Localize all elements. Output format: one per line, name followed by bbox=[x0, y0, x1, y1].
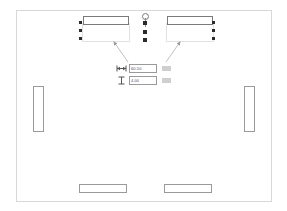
selection-grip[interactable] bbox=[143, 38, 147, 42]
horizontal-dimension-icon bbox=[116, 64, 127, 73]
length-unit-badge bbox=[162, 66, 171, 71]
selection-grip[interactable] bbox=[79, 29, 82, 32]
wall-bottom-left[interactable] bbox=[79, 184, 127, 193]
wall-length-value: 60.50 bbox=[131, 66, 142, 71]
wall-top-left[interactable] bbox=[83, 16, 129, 25]
wall-thickness-value: 4.00 bbox=[131, 78, 139, 83]
wall-bottom-right[interactable] bbox=[164, 184, 212, 193]
wall-left[interactable] bbox=[33, 86, 44, 132]
thickness-row: 4.00 bbox=[116, 75, 171, 86]
wall-right[interactable] bbox=[244, 86, 255, 132]
dimension-panel: 60.50 4.00 bbox=[116, 63, 178, 91]
selection-box-left bbox=[82, 23, 130, 42]
wall-thickness-icon bbox=[116, 76, 127, 85]
thickness-unit-badge bbox=[162, 78, 171, 83]
length-row: 60.50 bbox=[116, 63, 171, 74]
wall-top-right[interactable] bbox=[167, 16, 213, 25]
selection-grip[interactable] bbox=[143, 21, 147, 25]
selection-grip[interactable] bbox=[79, 37, 82, 40]
floor-plan-canvas[interactable]: 60.50 4.00 bbox=[0, 0, 287, 211]
selection-grip[interactable] bbox=[212, 21, 215, 24]
selection-grip[interactable] bbox=[143, 30, 147, 34]
selection-grip[interactable] bbox=[212, 37, 215, 40]
selection-grip[interactable] bbox=[212, 29, 215, 32]
wall-length-input[interactable]: 60.50 bbox=[129, 64, 157, 73]
selection-grip[interactable] bbox=[79, 21, 82, 24]
wall-thickness-input[interactable]: 4.00 bbox=[129, 76, 157, 85]
selection-box-right bbox=[166, 23, 214, 42]
